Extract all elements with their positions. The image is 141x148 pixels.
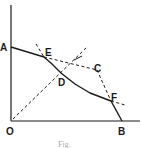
frontier-curve (11, 47, 122, 121)
figure-caption: Fig. (58, 140, 71, 148)
label-c: C (94, 63, 101, 74)
diagram: A E D C F O B Fig. (0, 0, 141, 148)
label-d: D (58, 77, 65, 88)
label-f: F (111, 92, 117, 103)
label-b: B (118, 126, 125, 137)
label-e: E (45, 47, 52, 58)
ray-tick-mark (74, 56, 82, 60)
label-o: O (6, 126, 14, 137)
label-a: A (0, 42, 7, 53)
